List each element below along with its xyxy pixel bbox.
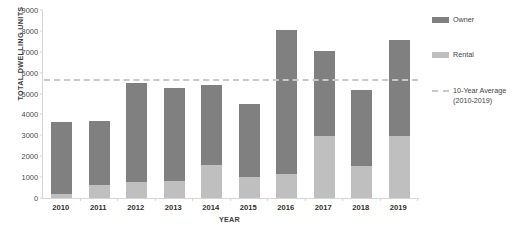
x-axis-tick-mark bbox=[80, 198, 81, 201]
bar-segment-owner[interactable] bbox=[239, 104, 260, 177]
bar-group[interactable] bbox=[389, 40, 410, 198]
legend-swatch-owner-icon bbox=[432, 17, 449, 23]
x-axis-tick-label: 2017 bbox=[303, 203, 343, 212]
y-axis-title: TOTAL DWELLING UNITS bbox=[16, 0, 25, 124]
bar-segment-owner[interactable] bbox=[389, 40, 410, 136]
x-axis-tick-mark bbox=[305, 198, 306, 201]
legend-item-label: Owner bbox=[453, 15, 474, 25]
bar-segment-rental[interactable] bbox=[389, 136, 410, 198]
x-axis-tick-label: 2012 bbox=[116, 203, 156, 212]
bar-segment-owner[interactable] bbox=[89, 121, 110, 186]
x-axis-tick-label: 2019 bbox=[378, 203, 418, 212]
x-axis-tick-mark bbox=[380, 198, 381, 201]
bar-segment-owner[interactable] bbox=[351, 90, 372, 165]
x-axis-tick-mark bbox=[192, 198, 193, 201]
bar-group[interactable] bbox=[201, 85, 222, 198]
x-axis-tick-label: 2016 bbox=[266, 203, 306, 212]
dwelling-units-chart: TOTAL DWELLING UNITS 0100020003000400050… bbox=[0, 0, 515, 229]
bar-group[interactable] bbox=[314, 51, 335, 198]
bar-segment-owner[interactable] bbox=[276, 30, 297, 174]
bar-group[interactable] bbox=[89, 121, 110, 198]
bar-segment-rental[interactable] bbox=[89, 185, 110, 198]
bar-segment-owner[interactable] bbox=[51, 122, 72, 194]
x-axis-tick-label: 2010 bbox=[41, 203, 81, 212]
x-axis-tick-mark bbox=[230, 198, 231, 201]
x-axis-tick-mark bbox=[117, 198, 118, 201]
bar-group[interactable] bbox=[239, 104, 260, 198]
x-axis-tick-mark bbox=[342, 198, 343, 201]
bar-group[interactable] bbox=[276, 30, 297, 198]
plot-area: 0100020003000400050006000700080009000 bbox=[42, 10, 417, 198]
legend-item-label: 10-Year Average (2010-2019) bbox=[453, 86, 506, 105]
x-axis-tick-mark bbox=[267, 198, 268, 201]
x-axis-tick-label: 2014 bbox=[191, 203, 231, 212]
legend-item[interactable]: Rental bbox=[432, 50, 474, 60]
bar-group[interactable] bbox=[351, 90, 372, 198]
bar-group[interactable] bbox=[126, 83, 147, 198]
x-axis-tick-label: 2013 bbox=[153, 203, 193, 212]
ten-year-average-line bbox=[44, 79, 418, 81]
bar-segment-owner[interactable] bbox=[314, 51, 335, 137]
x-axis-tick-mark bbox=[417, 198, 418, 201]
x-axis-tick-label: 2018 bbox=[341, 203, 381, 212]
bar-group[interactable] bbox=[51, 122, 72, 198]
legend-item[interactable]: Owner bbox=[432, 15, 474, 25]
bar-group[interactable] bbox=[164, 88, 185, 198]
bar-segment-owner[interactable] bbox=[201, 85, 222, 164]
legend-item[interactable]: 10-Year Average (2010-2019) bbox=[432, 86, 506, 105]
bar-segment-owner[interactable] bbox=[126, 83, 147, 182]
x-axis-tick-label: 2011 bbox=[78, 203, 118, 212]
x-axis-tick-mark bbox=[155, 198, 156, 201]
bar-segment-owner[interactable] bbox=[164, 88, 185, 181]
bar-segment-rental[interactable] bbox=[126, 182, 147, 198]
bar-segment-rental[interactable] bbox=[201, 165, 222, 198]
bar-segment-rental[interactable] bbox=[276, 174, 297, 198]
x-axis-tick-label: 2015 bbox=[228, 203, 268, 212]
legend-swatch-dash-icon bbox=[432, 90, 449, 92]
bar-segment-rental[interactable] bbox=[239, 177, 260, 198]
bar-segment-rental[interactable] bbox=[164, 181, 185, 198]
x-axis-title: YEAR bbox=[42, 215, 417, 224]
legend-item-label: Rental bbox=[453, 50, 474, 60]
legend-swatch-rental-icon bbox=[432, 52, 449, 58]
bar-segment-rental[interactable] bbox=[351, 166, 372, 198]
bar-segment-rental[interactable] bbox=[314, 136, 335, 198]
bars-layer bbox=[43, 10, 417, 198]
